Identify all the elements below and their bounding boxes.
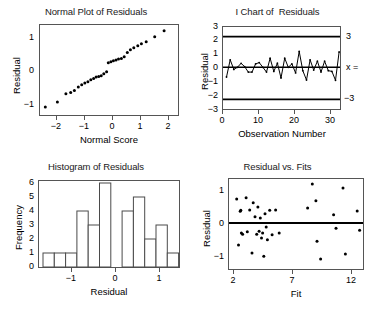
y-tick-label: −1 xyxy=(14,99,34,109)
x-tickmark xyxy=(233,270,234,274)
panel-histogram: Histogram of Residuals Frequency 6 5 4 3… xyxy=(0,155,192,311)
panel-residual-vs-fits-xlabel: Fit xyxy=(228,288,364,299)
x-tick-label: 2 xyxy=(223,275,243,285)
y-tick-label: 5 xyxy=(20,191,34,201)
histogram-bar xyxy=(100,183,111,267)
panel-residual-vs-fits-ylabel: Residual xyxy=(201,199,212,259)
panel-histogram-axes xyxy=(38,180,180,268)
y-tick-label: 3 xyxy=(202,21,218,31)
x-tick-label: 1 xyxy=(130,121,150,131)
x-tickmark xyxy=(330,110,331,114)
panel-residual-vs-fits-title: Residual vs. Fits xyxy=(182,161,373,172)
y-tick-label: 0 xyxy=(210,218,224,228)
x-tick-label: 0 xyxy=(102,121,122,131)
panel-residual-vs-fits-axes xyxy=(228,178,364,270)
y-tick-label: 2 xyxy=(202,34,218,44)
x-tick-label: 0 xyxy=(212,115,232,125)
i-chart-series xyxy=(223,27,340,109)
y-tick-label: 4 xyxy=(20,205,34,215)
x-tickmark xyxy=(294,110,295,114)
histogram-bar xyxy=(145,239,156,267)
x-tickmark xyxy=(258,110,259,114)
y-tick-label: −3 xyxy=(198,104,218,114)
y-tick-label: 0 xyxy=(202,62,218,72)
y-tick-label: 1 xyxy=(210,185,224,195)
x-tick-label: 0 xyxy=(105,273,125,283)
y-tick-label: 6 xyxy=(20,177,34,187)
x-tickmark xyxy=(159,268,160,272)
y-tick-label: 1 xyxy=(18,32,34,42)
histogram-bar xyxy=(167,253,178,267)
x-tick-label: −2 xyxy=(46,121,66,131)
panel-i-chart: I Chart of Residuals Residual 3 2 1 0 −1… xyxy=(192,0,383,156)
x-tick-label: 10 xyxy=(248,115,268,125)
panel-normal-plot-axes xyxy=(39,24,179,116)
x-tickmark xyxy=(112,116,113,120)
y-tick-label: 0 xyxy=(20,261,34,271)
panel-i-chart-title: I Chart of Residuals xyxy=(182,6,373,17)
normal-plot-points xyxy=(40,25,178,115)
x-tick-label: 1 xyxy=(149,273,169,283)
histogram-bar xyxy=(66,253,77,267)
histogram-bar xyxy=(156,225,167,267)
y-tick-label: 1 xyxy=(20,247,34,257)
x-tick-label: 12 xyxy=(341,275,361,285)
y-tick-label: 1 xyxy=(202,48,218,58)
lcl-right-label: −3 xyxy=(344,93,354,103)
panel-normal-plot-title: Normal Plot of Residuals xyxy=(0,6,192,17)
x-tick-label: −1 xyxy=(74,121,94,131)
histogram-bar xyxy=(77,211,88,267)
y-tick-label: 2 xyxy=(20,233,34,243)
y-tick-label: −1 xyxy=(198,76,218,86)
residual-vs-fits-points xyxy=(229,179,363,269)
x-tick-label: −1 xyxy=(61,273,81,283)
x-tickmark xyxy=(168,116,169,120)
x-tickmark xyxy=(71,268,72,272)
histogram-bar xyxy=(88,225,99,267)
histogram-bar xyxy=(54,253,65,267)
panel-histogram-xlabel: Residual xyxy=(38,286,180,297)
y-tick-label: 0 xyxy=(18,65,34,75)
x-tick-label: 7 xyxy=(282,275,302,285)
panel-histogram-title: Histogram of Residuals xyxy=(0,161,192,172)
y-tick-label: −1 xyxy=(206,251,224,261)
x-tickmark xyxy=(222,110,223,114)
x-tick-label: 20 xyxy=(284,115,304,125)
ucl-right-label: 3 xyxy=(346,31,351,41)
x-tick-label: 30 xyxy=(320,115,340,125)
panel-residual-vs-fits: Residual vs. Fits Residual 1 0 −1 xyxy=(192,155,383,311)
x-tickmark xyxy=(84,116,85,120)
x-tickmark xyxy=(351,270,352,274)
y-tick-label: −2 xyxy=(198,90,218,100)
histogram-bar xyxy=(43,253,54,267)
panel-normal-plot: Normal Plot of Residuals Residual 1 0 −1 xyxy=(0,0,192,156)
panel-i-chart-xlabel: Observation Number xyxy=(212,128,352,139)
x-tick-label: 2 xyxy=(158,121,178,131)
figure-sheet: Normal Plot of Residuals Residual 1 0 −1 xyxy=(0,0,383,311)
y-tick-label: 3 xyxy=(20,219,34,229)
histogram-bar xyxy=(133,197,144,267)
panel-normal-plot-xlabel: Normal Score xyxy=(39,134,179,145)
center-right-label: x = xyxy=(346,62,358,72)
x-tickmark xyxy=(56,116,57,120)
x-tickmark xyxy=(140,116,141,120)
i-chart-line xyxy=(227,51,340,80)
panel-i-chart-axes xyxy=(222,26,341,110)
x-tickmark xyxy=(292,270,293,274)
histogram-bars xyxy=(39,181,179,267)
x-tickmark xyxy=(115,268,116,272)
histogram-bar xyxy=(122,211,133,267)
panel-normal-plot-ylabel: Residual xyxy=(11,46,22,106)
